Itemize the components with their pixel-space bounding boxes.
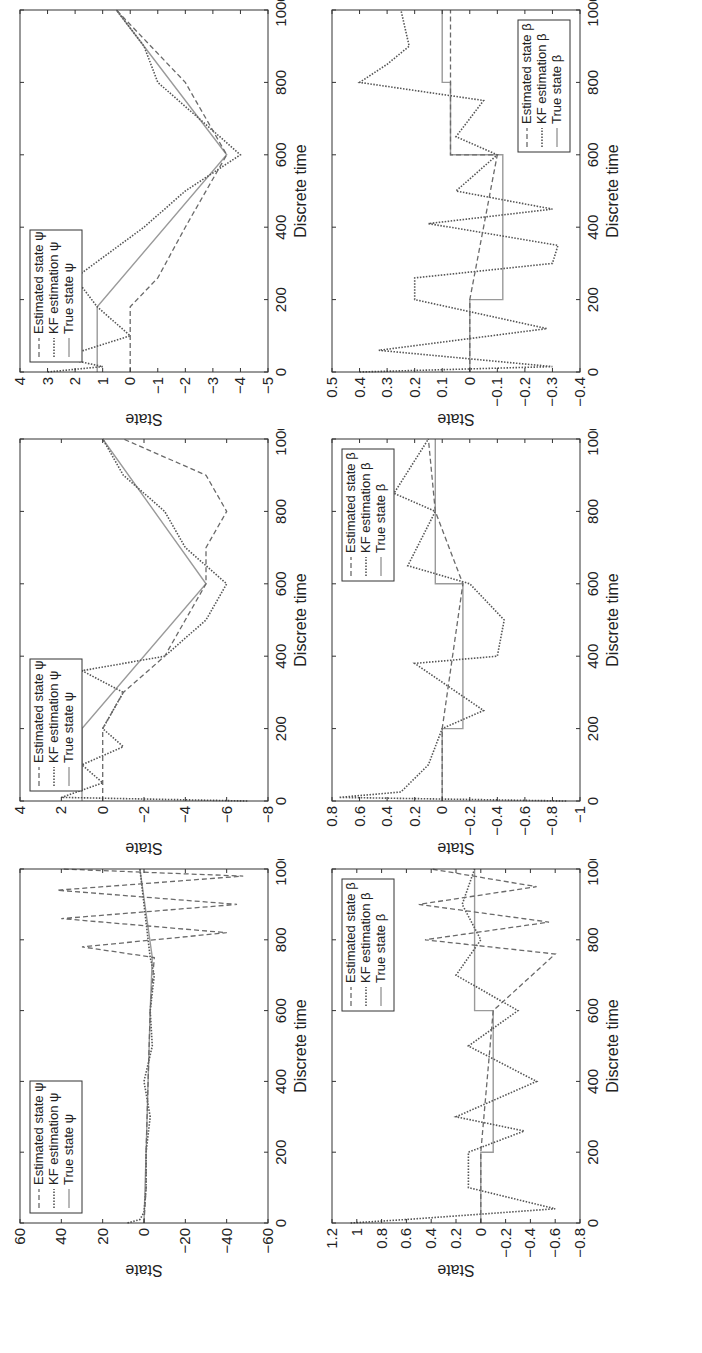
legend-entry: Estimated state ψ xyxy=(31,661,46,763)
y-tick-label: −3 xyxy=(204,377,221,394)
y-tick-label: −2 xyxy=(135,806,152,823)
x-tick-label: 800 xyxy=(272,927,289,952)
y-tick-label: 4 xyxy=(11,806,28,814)
y-axis-label: State xyxy=(437,411,474,428)
x-tick-label: 600 xyxy=(584,571,601,596)
x-tick-label: 600 xyxy=(272,142,289,167)
x-tick-label: 1000 xyxy=(584,0,601,27)
series-kf-estimation xyxy=(128,869,155,1223)
y-tick-label: −5 xyxy=(259,377,276,394)
y-tick-label: 0 xyxy=(461,377,478,385)
series-estimated-state xyxy=(103,439,227,801)
legend: Estimated state βKF estimation βTrue sta… xyxy=(342,879,394,1011)
x-tick-label: 600 xyxy=(272,571,289,596)
y-axis-label: State xyxy=(437,1262,474,1279)
x-tick-label: 200 xyxy=(584,716,601,741)
x-tick-label: 400 xyxy=(272,1069,289,1094)
y-tick-label: −0.1 xyxy=(488,377,505,407)
y-tick-label: 0.6 xyxy=(351,806,368,827)
y-tick-label: 0.1 xyxy=(433,377,450,398)
y-tick-label: 2 xyxy=(52,806,69,814)
x-tick-label: 1000 xyxy=(584,859,601,886)
legend-entry: KF estimation ψ xyxy=(46,1093,61,1185)
y-tick-label: 1 xyxy=(94,377,111,385)
y-axis-label: State xyxy=(125,840,162,857)
x-tick-label: 0 xyxy=(584,797,601,805)
y-tick-label: 0.2 xyxy=(406,806,423,827)
y-tick-label: −1 xyxy=(571,806,588,823)
x-tick-label: 1000 xyxy=(584,429,601,456)
x-tick-label: 0 xyxy=(272,368,289,376)
x-tick-label: 1000 xyxy=(272,0,289,27)
x-tick-label: 600 xyxy=(584,142,601,167)
y-tick-label: 0 xyxy=(121,377,138,385)
chart-beta-3: 02004006008001000−0.4−0.3−0.2−0.100.10.2… xyxy=(312,0,652,430)
y-tick-label: −40 xyxy=(218,1228,235,1253)
plot-area xyxy=(57,869,243,1223)
y-tick-label: −0.3 xyxy=(543,377,560,407)
x-axis-label: Discrete time xyxy=(604,573,621,666)
x-tick-label: 1000 xyxy=(272,429,289,456)
legend-entry: True state ψ xyxy=(61,1114,76,1185)
series-estimated-state xyxy=(419,869,555,1223)
x-tick-label: 400 xyxy=(584,1069,601,1094)
legend: Estimated state βKF estimation βTrue sta… xyxy=(342,449,394,581)
y-tick-label: −60 xyxy=(259,1228,276,1253)
y-tick-label: −8 xyxy=(259,806,276,823)
legend-entry: Estimated state β xyxy=(519,23,534,124)
y-tick-label: 0 xyxy=(433,806,450,814)
series-true-state xyxy=(435,439,463,801)
legend-entry: True state ψ xyxy=(61,692,76,763)
x-tick-label: 200 xyxy=(272,1140,289,1165)
x-axis-label: Discrete time xyxy=(292,573,309,666)
legend: Estimated state βKF estimation βTrue sta… xyxy=(518,20,570,152)
chart-beta-2: 02004006008001000−1−0.8−0.6−0.4−0.200.20… xyxy=(312,429,652,859)
y-tick-label: −0.8 xyxy=(543,806,560,836)
series-estimated-state xyxy=(116,10,226,372)
y-axis-label: State xyxy=(125,411,162,428)
x-tick-label: 800 xyxy=(272,70,289,95)
x-tick-label: 200 xyxy=(272,287,289,312)
x-tick-label: 200 xyxy=(584,287,601,312)
legend: Estimated state ψKF estimation ψTrue sta… xyxy=(30,659,82,791)
x-tick-label: 600 xyxy=(272,998,289,1023)
x-tick-label: 800 xyxy=(584,927,601,952)
x-tick-label: 400 xyxy=(584,215,601,240)
x-tick-label: 800 xyxy=(584,499,601,524)
legend: Estimated state ψKF estimation ψTrue sta… xyxy=(30,1081,82,1213)
y-tick-label: 0.8 xyxy=(323,806,340,827)
series-estimated-state xyxy=(57,869,243,1223)
y-tick-label: 2 xyxy=(66,377,83,385)
x-tick-label: 200 xyxy=(272,716,289,741)
y-tick-label: 0.4 xyxy=(378,806,395,827)
y-tick-label: 0 xyxy=(472,1228,489,1236)
y-tick-label: −0.4 xyxy=(571,377,588,407)
y-tick-label: −1 xyxy=(149,377,166,394)
x-tick-label: 0 xyxy=(584,368,601,376)
legend-entry: KF estimation ψ xyxy=(46,242,61,334)
y-tick-label: −0.4 xyxy=(488,806,505,836)
x-tick-label: 0 xyxy=(272,1219,289,1227)
y-tick-label: −0.2 xyxy=(516,377,533,407)
y-tick-label: 3 xyxy=(39,377,56,385)
x-axis-label: Discrete time xyxy=(292,144,309,237)
x-tick-label: 1000 xyxy=(272,859,289,886)
y-tick-label: −0.2 xyxy=(461,806,478,836)
legend-entry: True state β xyxy=(549,55,564,124)
chart-beta-1: 02004006008001000−0.8−0.6−0.4−0.200.20.4… xyxy=(312,859,652,1281)
y-tick-label: 0.2 xyxy=(447,1228,464,1249)
x-tick-label: 400 xyxy=(272,644,289,669)
legend-entry: Estimated state β xyxy=(343,882,358,983)
x-tick-label: 800 xyxy=(584,70,601,95)
x-axis-label: Discrete time xyxy=(604,999,621,1092)
y-tick-label: 0.4 xyxy=(422,1228,439,1249)
y-tick-label: −4 xyxy=(176,806,193,823)
chart-psi-2: 02004006008001000−8−6−4−2024Discrete tim… xyxy=(0,429,340,859)
x-tick-label: 400 xyxy=(584,644,601,669)
y-tick-label: 0 xyxy=(94,806,111,814)
y-tick-label: 0 xyxy=(135,1228,152,1236)
legend-entry: Estimated state ψ xyxy=(31,232,46,334)
x-tick-label: 0 xyxy=(584,1219,601,1227)
legend-entry: Estimated state ψ xyxy=(31,1083,46,1185)
legend-entry: KF estimation β xyxy=(358,892,373,983)
